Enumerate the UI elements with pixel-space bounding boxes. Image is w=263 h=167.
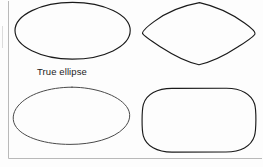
oval-shapes-figure: True ellipse	[0, 0, 263, 167]
figure-canvas: True ellipse	[0, 0, 263, 167]
true-ellipse-label: True ellipse	[37, 66, 87, 77]
figure-background	[0, 0, 263, 167]
